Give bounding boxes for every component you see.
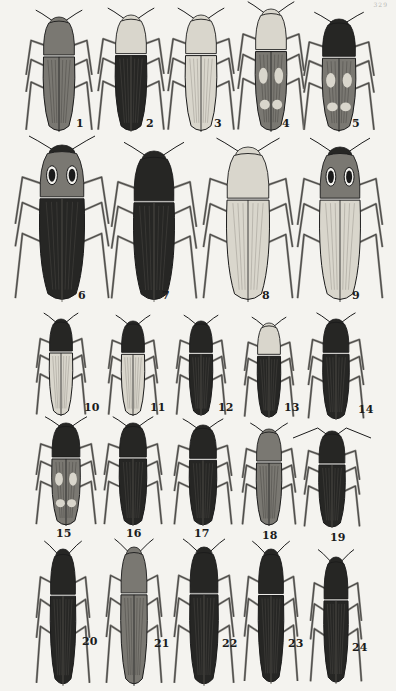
figure-number-label: 20	[82, 636, 97, 647]
beetle-figure	[106, 422, 160, 528]
beetle-figure	[240, 8, 302, 134]
figure-number-label: 3	[214, 118, 222, 129]
figure-number-label: 19	[330, 532, 345, 543]
beetle-figure	[38, 318, 84, 418]
beetle-illustration-icon	[246, 548, 296, 686]
beetle-illustration-icon	[206, 146, 290, 304]
beetle-illustration-icon	[170, 14, 232, 134]
figure-number-label: 24	[352, 642, 367, 653]
beetle-figure	[18, 144, 106, 304]
figure-number-label: 7	[162, 290, 170, 301]
beetle-figure	[206, 146, 290, 304]
beetle-illustration-icon	[108, 546, 160, 688]
beetle-figure	[310, 318, 362, 422]
beetle-plate: 329 123456789101112131415161718192021222…	[0, 0, 396, 691]
beetle-figure	[38, 422, 94, 528]
beetle-illustration-icon	[310, 318, 362, 422]
beetle-illustration-icon	[312, 556, 360, 686]
beetle-figure	[176, 424, 230, 528]
figure-number-label: 1	[76, 118, 84, 129]
figure-number-label: 22	[222, 638, 237, 649]
figure-number-label: 17	[194, 528, 209, 539]
beetle-figure	[246, 548, 296, 686]
figure-number-label: 15	[56, 528, 71, 539]
beetle-illustration-icon	[240, 8, 302, 134]
beetle-figure	[170, 14, 232, 134]
figure-number-label: 8	[262, 290, 270, 301]
figure-number-label: 21	[154, 638, 169, 649]
beetle-illustration-icon	[106, 422, 160, 528]
beetle-figure	[100, 14, 162, 134]
figure-number-label: 18	[262, 530, 277, 541]
figure-number-label: 23	[288, 638, 303, 649]
figure-number-label: 6	[78, 290, 86, 301]
beetle-figure	[244, 428, 294, 528]
beetle-illustration-icon	[38, 422, 94, 528]
figure-number-label: 2	[146, 118, 154, 129]
beetle-illustration-icon	[38, 548, 88, 688]
figure-number-label: 9	[352, 290, 360, 301]
figure-number-label: 5	[352, 118, 360, 129]
beetle-illustration-icon	[100, 14, 162, 134]
beetle-figure	[176, 546, 232, 688]
figure-number-label: 13	[284, 402, 299, 413]
beetle-illustration-icon	[300, 146, 380, 304]
beetle-illustration-icon	[38, 318, 84, 418]
beetle-illustration-icon	[306, 430, 358, 530]
beetle-illustration-icon	[114, 150, 194, 304]
beetle-illustration-icon	[306, 18, 372, 134]
figure-number-label: 16	[126, 528, 141, 539]
figure-number-label: 14	[358, 404, 373, 415]
figure-number-label: 11	[150, 402, 165, 413]
page-number: 329	[374, 1, 388, 8]
beetle-illustration-icon	[176, 424, 230, 528]
beetle-figure	[312, 556, 360, 686]
figure-number-label: 10	[84, 402, 99, 413]
beetle-figure	[306, 18, 372, 134]
beetle-figure	[306, 430, 358, 530]
beetle-illustration-icon	[18, 144, 106, 304]
beetle-figure	[38, 548, 88, 688]
figure-number-label: 4	[282, 118, 290, 129]
beetle-figure	[114, 150, 194, 304]
beetle-figure	[108, 546, 160, 688]
beetle-illustration-icon	[244, 428, 294, 528]
beetle-figure	[300, 146, 380, 304]
figure-number-label: 12	[218, 402, 233, 413]
beetle-illustration-icon	[176, 546, 232, 688]
